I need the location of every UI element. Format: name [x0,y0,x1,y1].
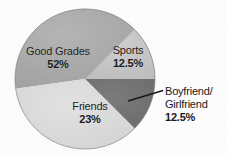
slice-label-good-grades-value: 52% [12,58,104,71]
paper-grain-texture [0,0,227,155]
slice-label-sports-name: Sports [100,44,156,57]
slice-label-good-grades-name: Good Grades [12,45,104,58]
slice-label-friends-name: Friends [56,100,124,113]
pie-chart-graphic [0,0,227,155]
slice-label-friends: Friends 23% [56,100,124,125]
slice-label-good-grades: Good Grades 52% [12,45,104,70]
slice-label-boyfriend-girlfriend: Boyfriend/ Girlfriend 12.5% [165,85,227,124]
slice-label-boyfriend-girlfriend-value: 12.5% [165,111,227,124]
slice-label-boyfriend-girlfriend-line2: Girlfriend [165,98,227,111]
slice-label-sports: Sports 12.5% [100,44,156,69]
slice-label-sports-value: 12.5% [100,57,156,70]
slice-label-boyfriend-girlfriend-line1: Boyfriend/ [165,85,227,98]
slice-label-friends-value: 23% [56,113,124,126]
pie-chart: Good Grades 52% Sports 12.5% Friends 23%… [0,0,227,155]
